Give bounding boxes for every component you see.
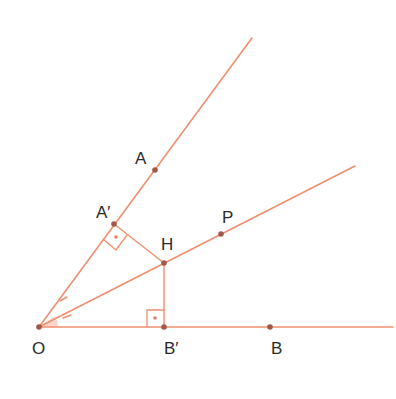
label-O: O [32,339,45,358]
label-P: P [222,208,233,227]
label-B: B [271,339,282,358]
ray-OP [39,166,355,327]
point-A [152,167,158,173]
label-A-prime: A′ [96,203,111,222]
right-angle-dot-A-prime [114,235,118,239]
label-A: A [135,149,147,168]
angle-tick-POB [63,315,71,318]
point-B [267,324,273,330]
label-B-prime: B′ [164,339,179,358]
ray-OA [39,38,252,327]
point-H [161,260,167,266]
geometry-diagram: O A A′ H P B′ B [0,0,396,399]
point-P [218,231,224,237]
right-angle-dot-B-prime [153,316,157,320]
point-B-prime [161,324,167,330]
point-A-prime [111,221,117,227]
point-O [36,324,42,330]
label-H: H [161,235,173,254]
